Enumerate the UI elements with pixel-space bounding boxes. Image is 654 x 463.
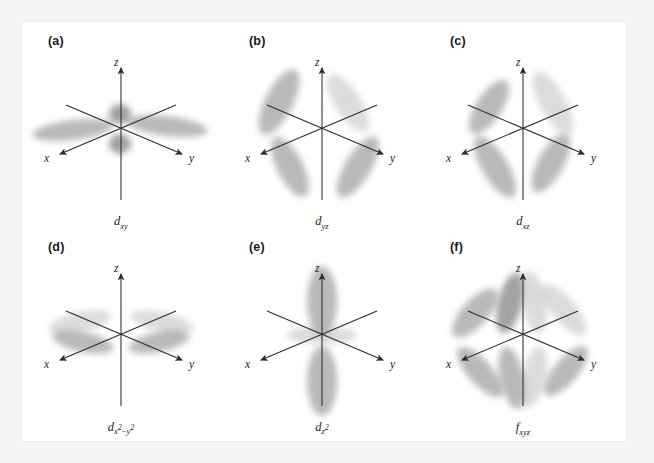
orbital-label-d: dx2−y2 <box>26 420 216 437</box>
axis-label-y: y <box>189 152 194 164</box>
orbital-stage-f: z x y <box>428 248 618 434</box>
axis-system-f <box>428 248 618 434</box>
orbital-stage-a: z x y <box>26 42 216 228</box>
orbital-panel-a: (a) <box>26 28 216 228</box>
axis-system-b <box>227 42 417 228</box>
axis-label-x: x <box>446 152 451 164</box>
orbital-panel-b: (b) z <box>227 28 417 228</box>
figure-root: (a) <box>0 0 654 463</box>
axis-label-x: x <box>446 358 451 370</box>
orbital-label-a: dxy <box>26 214 216 231</box>
orbital-panel-f: (f) <box>428 234 618 434</box>
figure-panel: (a) <box>22 22 626 441</box>
sub-exp-2: 2 <box>130 423 134 432</box>
axis-label-x: x <box>245 358 250 370</box>
orbital-panel-c: (c) z <box>428 28 618 228</box>
orbital-label-c: dxz <box>428 214 618 231</box>
orbital-stage-d: z x y <box>26 248 216 434</box>
orbital-subscript: yz <box>322 220 329 230</box>
axis-system-e <box>227 248 417 434</box>
axis-label-y: y <box>591 152 596 164</box>
orbital-panel-e: (e) z x <box>227 234 417 434</box>
axis-label-x: x <box>44 152 49 164</box>
axis-label-z: z <box>114 262 118 274</box>
orbital-stage-c: z x y <box>428 42 618 228</box>
orbital-panel-d: (d) z <box>26 234 216 434</box>
axis-label-x: x <box>44 358 49 370</box>
axis-system-d <box>26 248 216 434</box>
orbital-subscript: z2 <box>321 426 328 436</box>
axis-label-y: y <box>189 358 194 370</box>
axis-label-z: z <box>114 56 118 68</box>
orbital-label-b: dyz <box>227 214 417 231</box>
sub-exp-1: 2 <box>325 423 329 432</box>
orbital-subscript: xyz <box>519 426 530 436</box>
axis-label-y: y <box>390 358 395 370</box>
orbital-label-f: fxyz <box>428 420 618 437</box>
orbital-label-e: dz2 <box>227 420 417 437</box>
axis-label-z: z <box>315 262 319 274</box>
orbital-subscript: x2−y2 <box>114 426 134 436</box>
axis-label-z: z <box>315 56 319 68</box>
orbital-subscript: xz <box>523 220 530 230</box>
axis-label-y: y <box>390 152 395 164</box>
axis-label-z: z <box>516 262 520 274</box>
axis-label-y: y <box>591 358 596 370</box>
axis-system-a <box>26 42 216 228</box>
axis-label-z: z <box>516 56 520 68</box>
orbital-grid: (a) <box>22 22 626 441</box>
axis-system-c <box>428 42 618 228</box>
orbital-stage-b: z x y <box>227 42 417 228</box>
orbital-subscript: xy <box>120 220 128 230</box>
orbital-stage-e: z x y <box>227 248 417 434</box>
axis-label-x: x <box>245 152 250 164</box>
